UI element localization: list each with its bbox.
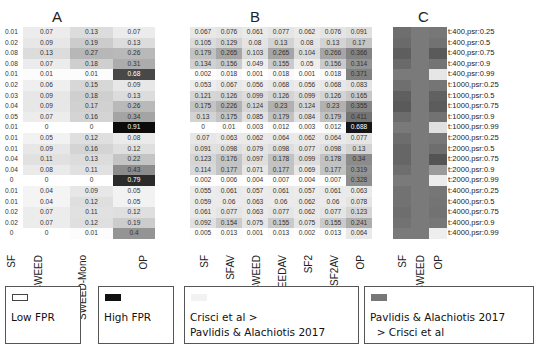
heatmap-cell: 0.4 (113, 228, 155, 239)
heatmap-cell: 0.165 (346, 91, 372, 102)
row-label: t:400,psr:0.99 (448, 69, 499, 80)
heatmap-cell: 0.064 (320, 133, 346, 144)
heatmap-row: 0.1210.1260.0990.1260.0990.1260.165 (190, 91, 372, 102)
heatmap-cell (429, 38, 447, 49)
heatmap-cell (429, 59, 447, 70)
heatmap-cell (429, 27, 447, 38)
heatmap-row: 0.130.1750.0850.1790.0840.1790.411 (190, 112, 372, 123)
heatmap-cell: 0.123 (190, 154, 216, 165)
heatmap-cell: 0.04 (0, 101, 23, 112)
heatmap-cell: 0.07 (23, 112, 70, 123)
legend-low-fpr: Low FPR (5, 286, 81, 344)
heatmap-cell: 0.123 (346, 207, 372, 218)
heatmap-cell (393, 144, 411, 155)
heatmap-cell: 0.265 (216, 48, 242, 59)
heatmap-cell: 0.091 (190, 144, 216, 155)
heatmap-cell: 0.01 (23, 69, 70, 80)
heatmap-cell (411, 27, 429, 38)
heatmap-cell: 0.104 (294, 48, 320, 59)
heatmap-cell: 0.121 (190, 91, 216, 102)
heatmap-cell: 0.077 (216, 207, 242, 218)
heatmap-cell: 0.01 (0, 122, 23, 133)
heatmap-cell: 0.003 (242, 122, 268, 133)
heatmap-cell: 0.129 (216, 38, 242, 49)
column-header: SFAV (225, 255, 236, 280)
heatmap-cell (411, 101, 429, 112)
heatmap-cell: 0.23 (268, 101, 294, 112)
legend-label: Pavlidis & Alachiotis 2017 > Crisci et a… (370, 310, 505, 340)
low-fpr-swatch (12, 294, 28, 301)
legend-high-fpr: High FPR (98, 286, 174, 344)
heatmap-cell (411, 175, 429, 186)
heatmap-cell (393, 197, 411, 208)
heatmap-cell: 0.01 (70, 228, 113, 239)
heatmap-cell: 0.012 (320, 122, 346, 133)
heatmap-row: 000.010.4 (0, 228, 155, 239)
heatmap-cell: 0.09 (113, 80, 155, 91)
heatmap-cell (411, 59, 429, 70)
heatmap-cell (411, 133, 429, 144)
heatmap-cell (393, 175, 411, 186)
heatmap-cell: 0.062 (294, 27, 320, 38)
heatmap-cell: 0.688 (346, 122, 372, 133)
heatmap-row (393, 197, 447, 208)
heatmap-cell (393, 48, 411, 59)
heatmap-cell (411, 91, 429, 102)
heatmap-cell: 0.077 (294, 144, 320, 155)
heatmap-row (393, 122, 447, 133)
heatmap-cell (411, 144, 429, 155)
heatmap-cell: 0.18 (70, 91, 113, 102)
heatmap-cell: 0 (70, 175, 113, 186)
heatmap-row (393, 133, 447, 144)
heatmap-cell: 0.07 (113, 27, 155, 38)
heatmap-cell: 0.068 (320, 80, 346, 91)
heatmap-cell: 0.061 (320, 186, 346, 197)
heatmap-cell (429, 69, 447, 80)
row-label: t:400,psr:0.25 (448, 27, 499, 38)
heatmap-cell: 0.01 (0, 144, 23, 155)
heatmap-row (393, 112, 447, 123)
heatmap-row (393, 175, 447, 186)
heatmap-cell: 0.179 (190, 48, 216, 59)
heatmap-cell (411, 48, 429, 59)
heatmap-cell: 0.004 (294, 175, 320, 186)
heatmap-row (393, 165, 447, 176)
heatmap-cell: 0.12 (113, 207, 155, 218)
heatmap-cell: 0.13 (346, 144, 372, 155)
heatmap-cell: 0.04 (23, 186, 70, 197)
heatmap-row: 0.080.130.270.26 (0, 48, 155, 59)
heatmap-cell: 0.08 (113, 133, 155, 144)
heatmap-row (393, 186, 447, 197)
heatmap-cell: 0.055 (190, 186, 216, 197)
panel-b-title: B (250, 8, 260, 25)
heatmap-cell: 0.328 (346, 175, 372, 186)
heatmap-cell: 0.02 (0, 218, 23, 229)
heatmap-row (393, 154, 447, 165)
heatmap-cell (429, 218, 447, 229)
row-label: t:400,psr:0.9 (448, 59, 499, 70)
heatmap-cell: 0.063 (242, 197, 268, 208)
heatmap-row: 0.040.110.130.22 (0, 154, 155, 165)
row-label: t:1000,psr:0.9 (448, 112, 499, 123)
heatmap-cell: 0.126 (320, 91, 346, 102)
panel-a-title: A (52, 8, 62, 25)
panel-c-title: C (418, 8, 429, 25)
heatmap-cell: 0.355 (346, 101, 372, 112)
heatmap-cell: 0.097 (242, 154, 268, 165)
heatmap-cell: 0.067 (190, 27, 216, 38)
heatmap-cell: 0.061 (190, 207, 216, 218)
column-header: SF (397, 255, 408, 268)
heatmap-row (393, 59, 447, 70)
heatmap-cell: 0.057 (294, 186, 320, 197)
heatmap-cell: 0.19 (113, 218, 155, 229)
heatmap-cell (429, 80, 447, 91)
row-label: t:4000,psr:0.75 (448, 207, 499, 218)
heatmap-row: 0.040.090.170.26 (0, 101, 155, 112)
legend-crisci-better: Crisci et al > Pavlidis & Alachiotis 201… (184, 286, 359, 344)
heatmap-cell: 0.062 (242, 133, 268, 144)
heatmap-cell (393, 165, 411, 176)
heatmap-cell: 0 (70, 122, 113, 133)
heatmap-cell: 0.098 (216, 144, 242, 155)
column-header: OP (433, 255, 444, 269)
heatmap-cell: 0.098 (320, 144, 346, 155)
